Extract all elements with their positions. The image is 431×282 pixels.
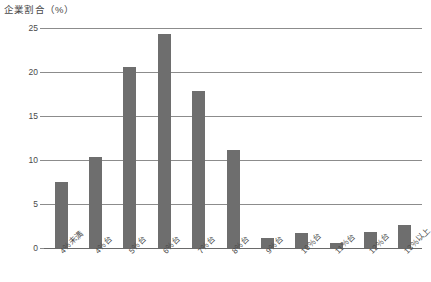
bar [89,157,102,248]
gridline [44,72,422,73]
y-tick-mark [40,160,44,161]
y-tick-label: 10 [4,156,38,165]
y-axis: 0510152025 [0,28,38,248]
y-tick-label: 20 [4,68,38,77]
x-axis: 4％未満4％台5％台6％台7％台8％台9％台10％台11％台12％台13％以上 [0,250,431,282]
bar [192,91,205,248]
y-tick-label: 15 [4,112,38,121]
gridline [44,116,422,117]
bar [158,34,171,248]
y-tick-label: 25 [4,24,38,33]
bar [227,150,240,248]
bar [123,67,136,248]
y-tick-mark [40,72,44,73]
y-tick-mark [40,116,44,117]
gridline [44,28,422,29]
y-tick-label: 5 [4,200,38,209]
bar-chart: 企業割合（%） 0510152025 4％未満4％台5％台6％台7％台8％台9％… [0,0,431,282]
y-tick-mark [40,248,44,249]
chart-title: 企業割合（%） [4,2,74,16]
plot-area [44,28,422,248]
bar [55,182,68,248]
y-tick-mark [40,28,44,29]
y-tick-mark [40,204,44,205]
